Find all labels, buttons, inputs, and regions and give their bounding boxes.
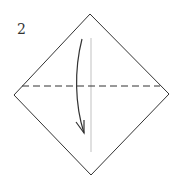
origami-diagram — [0, 0, 182, 184]
arrow-head-icon — [76, 120, 84, 133]
